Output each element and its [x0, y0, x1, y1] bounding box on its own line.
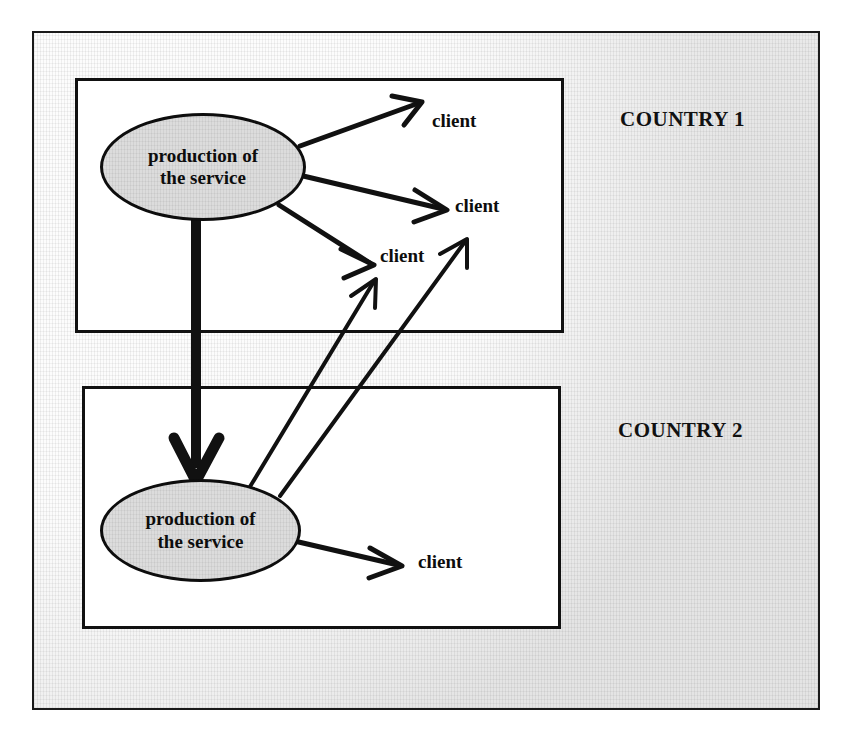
node-production-of-the-service-country-2[interactable]: production of the service	[100, 479, 301, 582]
diagram-canvas: production of the service production of …	[0, 0, 845, 742]
client-label-1: client	[432, 110, 476, 132]
node-production-of-the-service-country-1[interactable]: production of the service	[100, 113, 306, 221]
client-label-3: client	[380, 245, 424, 267]
country-2-label: COUNTRY 2	[618, 418, 743, 443]
client-label-2: client	[455, 195, 499, 217]
node-label: production of the service	[136, 508, 266, 553]
country-1-label: COUNTRY 1	[620, 107, 745, 132]
node-label: production of the service	[138, 145, 268, 190]
client-label-4: client	[418, 551, 462, 573]
